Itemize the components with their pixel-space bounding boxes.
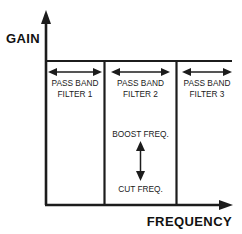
pass-band-filter-3: PASS BAND FILTER 3 xyxy=(182,68,232,99)
band-3-arrow-icon xyxy=(182,68,232,76)
band-2-arrow-icon xyxy=(111,68,170,76)
band-2-label-line2: FILTER 2 xyxy=(123,89,158,99)
frequency-axis-title: FREQUENCY xyxy=(147,214,232,229)
boost-cut-range-marker: BOOST FREQ. CUT FREQ. xyxy=(112,129,169,194)
band-3-label-line1: PASS BAND xyxy=(184,78,231,88)
diagram-canvas: PASS BAND FILTER 1 PASS BAND FILTER 2 PA… xyxy=(0,0,242,234)
band-1-label-line2: FILTER 1 xyxy=(58,89,93,99)
pass-band-filter-2: PASS BAND FILTER 2 xyxy=(111,68,170,99)
band-3-label-line2: FILTER 3 xyxy=(190,89,225,99)
band-1-arrow-icon xyxy=(48,68,102,76)
band-1-label-line1: PASS BAND xyxy=(52,78,99,88)
frequency-axis xyxy=(45,200,233,210)
frequency-response-diagram: PASS BAND FILTER 1 PASS BAND FILTER 2 PA… xyxy=(0,0,242,234)
boost-cut-arrow-icon xyxy=(136,141,145,181)
cut-freq-label: CUT FREQ. xyxy=(118,184,163,194)
pass-band-filter-1: PASS BAND FILTER 1 xyxy=(48,68,102,99)
gain-axis xyxy=(41,10,51,205)
band-2-label-line1: PASS BAND xyxy=(117,78,164,88)
gain-axis-title: GAIN xyxy=(6,31,40,46)
boost-freq-label: BOOST FREQ. xyxy=(112,129,169,139)
